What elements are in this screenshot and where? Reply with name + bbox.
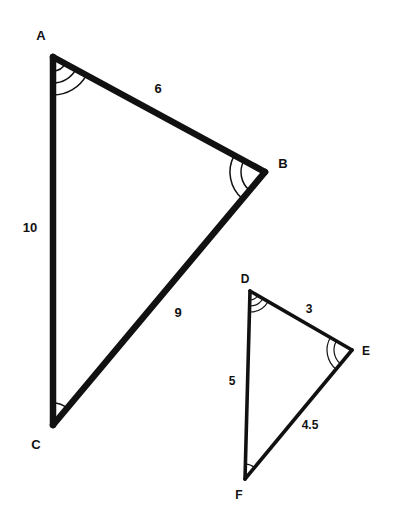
similar-triangles-figure: A B C 6 10 9 D E F 3 5 4.5 [0, 0, 393, 513]
side-length-ef: 4.5 [302, 418, 319, 432]
side-length-ac: 10 [23, 220, 37, 235]
side-length-de: 3 [306, 302, 313, 316]
geometry-diagram: A B C 6 10 9 D E F 3 5 4.5 [0, 0, 393, 513]
vertex-label-d: D [241, 272, 250, 286]
vertex-label-b: B [278, 156, 287, 171]
side-length-df: 5 [229, 374, 236, 388]
vertex-label-f: F [235, 488, 242, 502]
vertex-label-e: E [362, 344, 370, 358]
side-length-bc: 9 [174, 305, 181, 320]
side-length-ab: 6 [154, 81, 161, 96]
vertex-label-a: A [36, 28, 46, 43]
vertex-label-c: C [31, 437, 41, 452]
